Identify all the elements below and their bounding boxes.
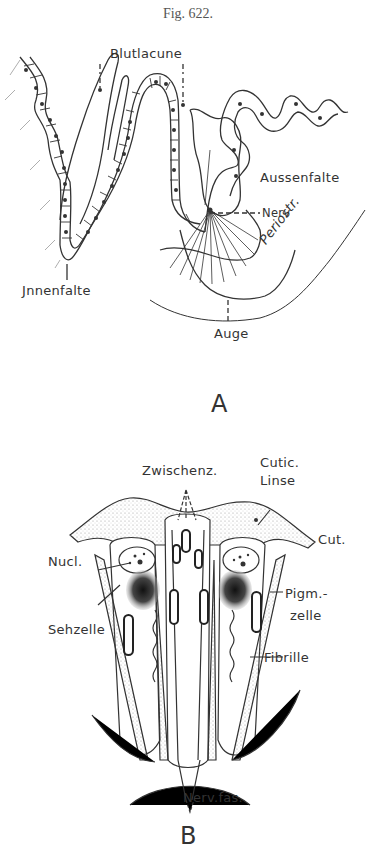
label-nervfas: Nerv.fas.: [183, 790, 243, 805]
label-fibrille: Fibrille: [264, 650, 309, 665]
label-zwischenz: Zwischenz.: [142, 463, 218, 478]
panel-b-drawing: [0, 0, 376, 857]
panel-b-letter: B: [180, 822, 196, 850]
label-zelle: zelle: [290, 608, 322, 623]
label-sehzelle: Sehzelle: [48, 622, 105, 637]
label-nucl: Nucl.: [48, 554, 82, 569]
label-cut: Cut.: [318, 532, 346, 547]
label-linse: Linse: [260, 473, 295, 488]
label-cutic: Cutic.: [260, 455, 299, 470]
label-pigm: Pigm.-: [285, 586, 328, 601]
